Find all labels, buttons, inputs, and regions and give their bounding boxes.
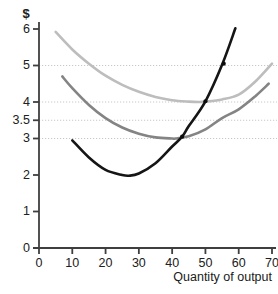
x-tick-label: 50 [198, 256, 212, 270]
x-axis-tick-labels: 010203040506070 [36, 256, 278, 270]
y-axis-tick-labels: 01233.5456 [13, 22, 30, 255]
y-tick-label: 5 [23, 58, 30, 72]
axes-group [33, 22, 276, 248]
y-tick-label: 3 [23, 131, 30, 145]
x-tick-label: 20 [99, 256, 113, 270]
x-tick-label: 70 [265, 256, 278, 270]
y-tick-label: 2 [23, 168, 30, 182]
y-tick-label: 4 [23, 95, 30, 109]
data-point-marker [203, 99, 207, 103]
y-tick-label: 3.5 [13, 113, 30, 127]
gridlines-group [39, 66, 277, 139]
x-tick-label: 10 [65, 256, 79, 270]
x-tick-label: 60 [232, 256, 246, 270]
cost-curve [62, 76, 268, 138]
y-tick-label: 1 [23, 204, 30, 218]
y-tick-label: 0 [23, 241, 30, 255]
y-axis-label: $ [22, 6, 30, 21]
cost-curves-chart: 01233.5456 010203040506070 $ Quantity of… [0, 0, 278, 294]
chart-canvas: 01233.5456 010203040506070 $ Quantity of… [0, 0, 278, 294]
x-tick-label: 0 [36, 256, 43, 270]
cost-curve [56, 32, 272, 102]
x-axis-label: Quantity of output [173, 270, 272, 284]
y-tick-label: 6 [23, 22, 30, 36]
x-tick-label: 40 [165, 256, 179, 270]
x-tick-label: 30 [132, 256, 146, 270]
data-point-marker [222, 62, 226, 66]
data-point-marker [180, 135, 184, 139]
